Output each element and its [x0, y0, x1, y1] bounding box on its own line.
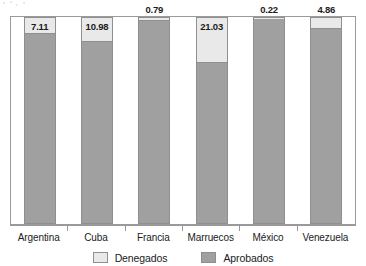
segment-aprobados — [254, 18, 284, 223]
category-label-marruecos: Marruecos — [182, 226, 239, 248]
stacked-bar: 21.03 — [196, 17, 228, 224]
bar-value-label: 10.98 — [82, 21, 112, 32]
stacked-bar — [310, 17, 342, 224]
chart-legend: Denegados Aprobados — [0, 249, 366, 266]
category-label-argentina: Argentina — [10, 226, 67, 248]
axis-tick — [182, 226, 183, 231]
segment-denegados: 10.98 — [82, 18, 112, 41]
legend-swatch-aprobados — [201, 252, 216, 263]
bar-value-label: 0.22 — [247, 4, 291, 15]
category-label-cuba: Cuba — [67, 226, 124, 248]
axis-tick — [67, 226, 68, 231]
segment-denegados — [139, 18, 169, 20]
bar-venezuela[interactable]: 4.86 — [310, 17, 342, 224]
category-label-mxico: México — [239, 226, 296, 248]
segment-denegados: 21.03 — [197, 18, 227, 62]
segment-denegados: 7.11 — [25, 18, 55, 33]
legend-item-denegados[interactable]: Denegados — [93, 252, 168, 264]
category-label-venezuela: Venezuela — [297, 226, 354, 248]
axis-tick — [125, 226, 126, 231]
bar-mxico[interactable]: 0.22 — [253, 17, 285, 224]
segment-aprobados — [82, 41, 112, 223]
bar-marruecos[interactable]: 21.03 — [196, 17, 228, 224]
axis-tick — [297, 226, 298, 231]
scan-artifact-speckle — [2, 1, 28, 8]
segment-aprobados — [25, 33, 55, 223]
stacked-bar — [253, 17, 285, 224]
stacked-bar: 7.11 — [24, 17, 56, 224]
plot-area: 7.1110.980.7921.030.224.86 — [11, 17, 355, 224]
stacked-bar: 10.98 — [81, 17, 113, 224]
stacked-bar — [138, 17, 170, 224]
category-label-francia: Francia — [125, 226, 182, 248]
bar-value-label: 4.86 — [304, 4, 348, 15]
segment-denegados — [311, 18, 341, 28]
legend-label-denegados: Denegados — [115, 252, 168, 264]
segment-aprobados — [311, 28, 341, 223]
bar-value-label: 7.11 — [25, 21, 55, 32]
legend-label-aprobados: Aprobados — [223, 252, 273, 264]
axis-tick — [239, 226, 240, 231]
bar-argentina[interactable]: 7.11 — [24, 17, 56, 224]
legend-item-aprobados[interactable]: Aprobados — [201, 252, 273, 264]
bar-value-label: 21.03 — [197, 21, 227, 32]
segment-aprobados — [139, 20, 169, 223]
stacked-bar-chart-figure: 7.1110.980.7921.030.224.86 ArgentinaCuba… — [0, 0, 366, 266]
plot-frame: 7.1110.980.7921.030.224.86 — [10, 16, 356, 225]
bar-value-label: 0.79 — [132, 4, 176, 15]
category-axis: ArgentinaCubaFranciaMarruecosMéxicoVenez… — [10, 225, 356, 247]
legend-swatch-denegados — [93, 252, 108, 263]
bar-cuba[interactable]: 10.98 — [81, 17, 113, 224]
segment-aprobados — [197, 62, 227, 223]
bar-francia[interactable]: 0.79 — [138, 17, 170, 224]
